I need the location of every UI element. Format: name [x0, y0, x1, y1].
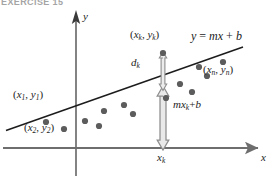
point-label-n: (xn, yn)	[203, 64, 233, 76]
data-point-k	[160, 50, 166, 56]
point-label-k: (xk, yk)	[130, 29, 159, 41]
deviation-label: dk	[131, 57, 140, 69]
p2-close: )	[50, 121, 54, 133]
data-point	[101, 108, 107, 114]
mxk-base: mx	[173, 98, 186, 110]
line-equation-label: y = mx + b	[191, 30, 242, 42]
dk-subscript: k	[137, 61, 140, 70]
data-point	[130, 111, 136, 117]
deviation-arrow	[159, 52, 166, 91]
data-point	[96, 123, 102, 129]
y-axis-label: y	[83, 11, 88, 22]
eq-plus: +	[226, 29, 233, 43]
data-point	[82, 118, 88, 124]
x-axis-label: x	[261, 152, 266, 163]
data-point	[121, 102, 127, 108]
data-point	[189, 89, 195, 95]
mxk-b: b	[195, 98, 201, 110]
least-squares-figure: EXERCISE 15	[0, 0, 274, 180]
eq-equals: =	[199, 29, 206, 43]
point-label-2: (x2, y2)	[24, 122, 54, 134]
y-axis	[72, 10, 80, 176]
pn-close: )	[229, 63, 233, 75]
x-tick-label-xk: xk	[157, 152, 165, 164]
xk-subscript: k	[162, 156, 165, 165]
data-point	[61, 126, 67, 132]
predicted-value-label: mxk+b	[173, 99, 201, 111]
data-point	[177, 81, 183, 87]
data-point	[196, 64, 202, 70]
pk-close: )	[156, 28, 160, 40]
p1-close: )	[39, 88, 43, 100]
point-label-1: (x1, y1)	[13, 89, 43, 101]
data-point	[163, 95, 169, 101]
eq-y: y	[191, 29, 196, 43]
eq-mx: mx	[209, 29, 223, 43]
eq-b: b	[236, 29, 242, 43]
